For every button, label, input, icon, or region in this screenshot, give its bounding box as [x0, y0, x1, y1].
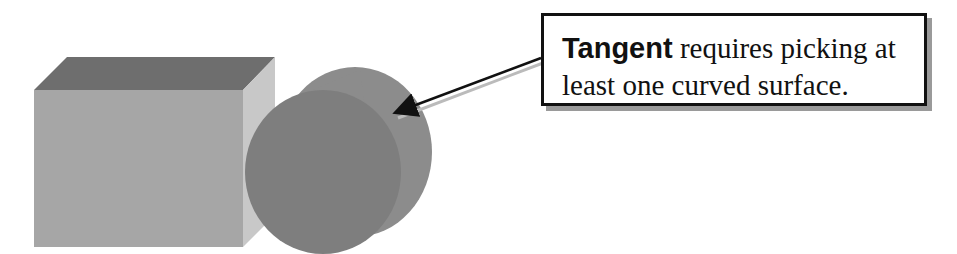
- cylinder-front-face: [245, 90, 401, 254]
- callout-line-1: Tangent requires picking at: [562, 30, 924, 67]
- box-top-face: [34, 57, 275, 90]
- callout-keyword: Tangent: [562, 32, 673, 64]
- box-shape: [34, 57, 275, 247]
- callout-line-2: least one curved surface.: [562, 67, 924, 104]
- box-front-face: [34, 90, 243, 247]
- callout-box: Tangent requires picking at least one cu…: [541, 13, 927, 106]
- callout-arrow: [397, 58, 543, 118]
- callout-line-1-text: requires picking at: [673, 32, 896, 64]
